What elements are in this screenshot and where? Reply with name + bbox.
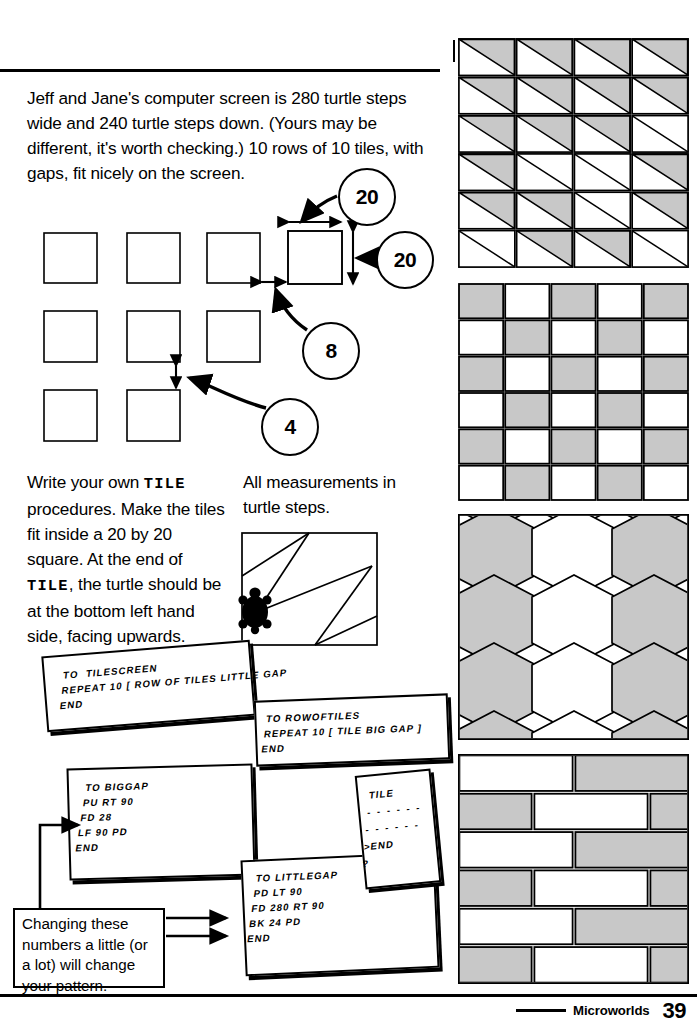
- card-biggap-text: TO BIGGAP PU RT 90 FD 28 LF 90 PD END: [54, 765, 250, 856]
- example-tile-figure: [237, 528, 382, 650]
- instructions-part-1: Write your own: [27, 472, 144, 492]
- caption-box: Changing these numbers a little (or a lo…: [13, 908, 165, 988]
- header-rule: [0, 69, 440, 72]
- card-rowoftiles: TO ROWOFTILES REPEAT 10 [ TILE BIG GAP ]…: [254, 693, 450, 766]
- callout-big-gap: 8: [302, 322, 360, 380]
- footer: Microworlds 39: [520, 996, 697, 1025]
- footer-dash: [516, 1009, 566, 1012]
- callout-tile-width: 20: [338, 168, 396, 226]
- card-tile-text: TILE - - - - - - - - - - - - >END ?: [348, 771, 429, 874]
- instructions-part-2: procedures. Make the tiles fit inside a …: [27, 499, 225, 569]
- tile-instructions-paragraph: Write your own TILE procedures. Make the…: [27, 470, 227, 649]
- page-number: 39: [663, 998, 686, 1024]
- brick-tiling-pattern: [458, 754, 689, 984]
- callout-little-gap: 4: [261, 398, 319, 456]
- hexagon-tiling-pattern: [458, 514, 689, 740]
- card-tile-template: TILE - - - - - - - - - - - - >END ?: [355, 769, 442, 890]
- header-vertical-rule: [453, 40, 455, 62]
- footer-book-title: Microworlds: [573, 1003, 650, 1018]
- page-canvas: Jeff and Jane's computer screen is 280 t…: [0, 0, 697, 1025]
- card-tilescreen-text: TO TILESCREEN REPEAT 10 [ ROW OF TILES L…: [37, 642, 248, 715]
- card-rowoftiles-text: TO ROWOFTILES REPEAT 10 [ TILE BIG GAP ]…: [247, 695, 445, 757]
- callout-tile-height: 20: [376, 231, 434, 289]
- triangle-tiling-pattern: [458, 38, 689, 268]
- measurements-note: All measurements in turtle steps.: [243, 470, 403, 520]
- card-biggap: TO BIGGAP PU RT 90 FD 28 LF 90 PD END: [66, 763, 255, 880]
- checkerboard-tiling-pattern: [458, 283, 689, 501]
- tile-keyword-1: TILE: [144, 475, 186, 493]
- tile-keyword-2: TILE: [27, 577, 69, 595]
- card-tilescreen: TO TILESCREEN REPEAT 10 [ ROW OF TILES L…: [41, 640, 255, 733]
